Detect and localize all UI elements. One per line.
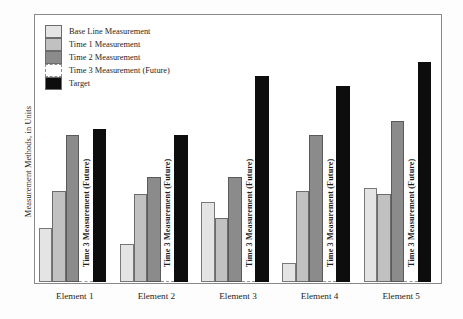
chart-legend: Base Line MeasurementTime 1 MeasurementT… [45, 25, 235, 90]
bar-time3[interactable]: Time 3 Measurement (Future) [323, 132, 337, 282]
legend-item[interactable]: Time 3 Measurement (Future) [45, 64, 235, 77]
bar-time2[interactable] [66, 135, 80, 282]
bar-annotation-label: Time 3 Measurement (Future) [244, 159, 253, 267]
bar-time2[interactable] [147, 177, 161, 282]
bar-baseline[interactable] [201, 202, 215, 282]
x-axis-tick-4: Element 4 [279, 291, 361, 301]
legend-item[interactable]: Time 2 Measurement [45, 51, 235, 64]
bar-time1[interactable] [296, 191, 310, 282]
bar-annotation-label: Time 3 Measurement (Future) [163, 159, 172, 267]
legend-swatch-icon [45, 51, 62, 64]
bar-time1[interactable] [215, 218, 229, 282]
bar-annotation-label: Time 3 Measurement (Future) [406, 159, 415, 267]
legend-item-label: Time 3 Measurement (Future) [69, 66, 170, 76]
bar-time3[interactable]: Time 3 Measurement (Future) [79, 132, 93, 282]
bar-time3[interactable]: Time 3 Measurement (Future) [242, 132, 256, 282]
legend-item[interactable]: Base Line Measurement [45, 25, 235, 38]
legend-swatch-icon [45, 38, 62, 51]
legend-item-label: Target [69, 79, 90, 89]
bar-baseline[interactable] [120, 244, 134, 282]
y-axis-title: Measurement Methods, in Units [24, 62, 33, 262]
legend-item-label: Time 2 Measurement [69, 53, 140, 63]
bar-time2[interactable] [228, 177, 242, 282]
bar-time1[interactable] [134, 194, 148, 282]
legend-item-label: Time 1 Measurement [69, 40, 140, 50]
x-axis-tick-5: Element 5 [360, 291, 442, 301]
bar-annotation-label: Time 3 Measurement (Future) [325, 159, 334, 267]
bar-target[interactable] [93, 129, 107, 282]
x-axis-tick-labels: Element 1Element 2Element 3Element 4Elem… [34, 291, 442, 307]
legend-item[interactable]: Target [45, 77, 235, 90]
bar-time3[interactable]: Time 3 Measurement (Future) [404, 132, 418, 282]
legend-item[interactable]: Time 1 Measurement [45, 38, 235, 51]
bar-target[interactable] [174, 135, 188, 282]
bar-baseline[interactable] [282, 263, 296, 282]
bar-target[interactable] [255, 76, 269, 282]
bar-time3[interactable]: Time 3 Measurement (Future) [161, 132, 175, 282]
bar-time2[interactable] [309, 135, 323, 282]
legend-swatch-icon [45, 64, 62, 77]
bar-time2[interactable] [391, 121, 405, 282]
bar-time1[interactable] [377, 194, 391, 282]
bar-chart-figure: Measurement Methods, in Units Time 3 Mea… [0, 0, 463, 319]
plot-frame: Time 3 Measurement (Future)Time 3 Measur… [34, 14, 442, 284]
bar-target[interactable] [418, 62, 432, 282]
bar-baseline[interactable] [39, 228, 53, 282]
x-axis-tick-3: Element 3 [197, 291, 279, 301]
bar-time1[interactable] [52, 191, 66, 282]
legend-swatch-icon [45, 25, 62, 38]
legend-swatch-icon [45, 77, 62, 90]
x-axis-tick-1: Element 1 [34, 291, 116, 301]
bar-target[interactable] [336, 86, 350, 282]
bar-annotation-label: Time 3 Measurement (Future) [82, 159, 91, 267]
bar-baseline[interactable] [364, 188, 378, 282]
bar-group: Time 3 Measurement (Future) [282, 16, 350, 282]
legend-item-label: Base Line Measurement [69, 27, 150, 37]
bar-group: Time 3 Measurement (Future) [364, 16, 432, 282]
x-axis-tick-2: Element 2 [116, 291, 198, 301]
